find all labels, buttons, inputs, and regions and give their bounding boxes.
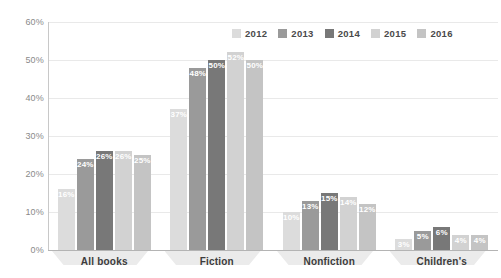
bar[interactable]: 48% (189, 68, 206, 250)
y-axis-tick-label: 40% (4, 93, 44, 103)
legend-item-2015[interactable]: 2015 (371, 28, 406, 39)
legend-swatch-icon (417, 29, 426, 38)
bar[interactable]: 3% (395, 239, 412, 250)
bar-value-label: 6% (433, 229, 450, 237)
legend-item-2013[interactable]: 2013 (278, 28, 313, 39)
bar-value-label: 13% (302, 203, 319, 211)
bar[interactable]: 52% (227, 52, 244, 250)
bar-chart: 60%50%40%30%20%10%0% 2012201320142015201… (0, 0, 501, 278)
bar[interactable]: 4% (471, 235, 488, 250)
bar-value-label: 4% (471, 237, 488, 245)
bar-value-label: 50% (246, 62, 263, 70)
chart-legend: 20122013201420152016 (232, 28, 453, 39)
bar-value-label: 12% (359, 206, 376, 214)
bar-value-label: 26% (96, 153, 113, 161)
bar[interactable]: 13% (302, 201, 319, 250)
y-axis-ticks: 60%50%40%30%20%10%0% (0, 0, 44, 278)
y-axis-tick-label: 0% (4, 245, 44, 255)
category-label: Fiction (200, 256, 234, 267)
x-axis-category-labels: All booksFictionNonfictionChildren's (48, 251, 498, 278)
bar-value-label: 3% (395, 241, 412, 249)
bar-value-label: 16% (58, 191, 75, 199)
legend-label: 2014 (338, 28, 360, 39)
bar-value-label: 15% (321, 195, 338, 203)
bar-value-label: 37% (170, 111, 187, 119)
bar-value-label: 10% (283, 214, 300, 222)
bar[interactable]: 50% (246, 60, 263, 250)
bar-value-label: 50% (208, 62, 225, 70)
legend-item-2016[interactable]: 2016 (417, 28, 452, 39)
legend-swatch-icon (371, 29, 380, 38)
bar-value-label: 24% (77, 161, 94, 169)
y-axis-tick-label: 60% (4, 17, 44, 27)
category-label: Nonfiction (304, 256, 355, 267)
bar-group-nonfiction: 10%13%15%14%12% (273, 22, 386, 250)
bar-group-children-s: 3%5%6%4%4% (386, 22, 499, 250)
bar[interactable]: 26% (115, 151, 132, 250)
category-label: All books (81, 256, 128, 267)
bar[interactable]: 10% (283, 212, 300, 250)
y-axis-tick-label: 10% (4, 207, 44, 217)
bar-group-fiction: 37%48%50%52%50% (161, 22, 274, 250)
bar[interactable]: 50% (208, 60, 225, 250)
bar[interactable]: 26% (96, 151, 113, 250)
category-label-cell: Children's (386, 251, 499, 278)
y-axis-tick-label: 30% (4, 131, 44, 141)
legend-swatch-icon (325, 29, 334, 38)
legend-label: 2016 (430, 28, 452, 39)
bar-groups: 16%24%26%26%25%37%48%50%52%50%10%13%15%1… (48, 22, 498, 250)
bar-value-label: 25% (134, 157, 151, 165)
category-label-cell: Nonfiction (273, 251, 386, 278)
bar[interactable]: 14% (340, 197, 357, 250)
y-axis-tick-label: 20% (4, 169, 44, 179)
legend-label: 2015 (384, 28, 406, 39)
bar-value-label: 14% (340, 199, 357, 207)
bar-value-label: 26% (115, 153, 132, 161)
bar[interactable]: 5% (414, 231, 431, 250)
legend-swatch-icon (278, 29, 287, 38)
bar[interactable]: 12% (359, 204, 376, 250)
legend-label: 2012 (245, 28, 267, 39)
legend-item-2014[interactable]: 2014 (325, 28, 360, 39)
bar-value-label: 48% (189, 70, 206, 78)
bar-group-all-books: 16%24%26%26%25% (48, 22, 161, 250)
legend-item-2012[interactable]: 2012 (232, 28, 267, 39)
y-axis-tick-label: 50% (4, 55, 44, 65)
bar-value-label: 5% (414, 233, 431, 241)
bar[interactable]: 6% (433, 227, 450, 250)
bar[interactable]: 24% (77, 159, 94, 250)
bar-value-label: 4% (452, 237, 469, 245)
legend-label: 2013 (291, 28, 313, 39)
bar-value-label: 52% (227, 54, 244, 62)
bar[interactable]: 15% (321, 193, 338, 250)
category-label-cell: Fiction (161, 251, 274, 278)
bar[interactable]: 16% (58, 189, 75, 250)
category-label: Children's (417, 256, 468, 267)
bar[interactable]: 25% (134, 155, 151, 250)
category-label-cell: All books (48, 251, 161, 278)
bar[interactable]: 4% (452, 235, 469, 250)
bar[interactable]: 37% (170, 109, 187, 250)
legend-swatch-icon (232, 29, 241, 38)
